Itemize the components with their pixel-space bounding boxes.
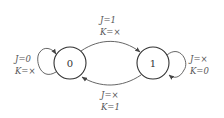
transition-1-to-0-arrow [82,75,141,85]
transition-0-to-1-arrow [81,41,140,52]
state-diagram: 0 1 J=0 K=× J=1 K=× J=× K=1 J=× K=0 [0,0,224,118]
loop-1-j-label: J=× [188,54,208,64]
self-loop-1-arrow [167,52,186,78]
t10-j-label: J=× [99,90,119,100]
state-0-label: 0 [67,58,73,69]
state-0: 0 [54,47,86,79]
state-1-label: 1 [150,58,156,69]
t10-k-label: K=1 [100,102,120,112]
state-1: 1 [137,47,169,79]
self-loop-0-arrow [38,48,56,74]
loop-1-k-label: K=0 [189,66,209,76]
t01-k-label: K=× [99,27,121,37]
t01-j-label: J=1 [98,15,116,25]
loop-0-j-label: J=0 [13,54,32,64]
loop-0-k-label: K=× [14,66,36,76]
